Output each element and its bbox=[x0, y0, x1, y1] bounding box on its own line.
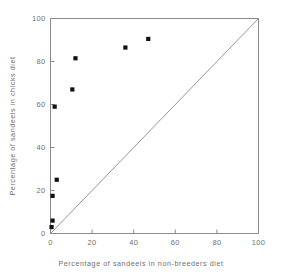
x-tick-label: 60 bbox=[171, 238, 180, 247]
y-tick-label: 60 bbox=[37, 100, 46, 109]
data-point bbox=[73, 56, 77, 60]
data-point bbox=[146, 37, 150, 41]
y-axis-tick-labels: 020406080100 bbox=[32, 14, 45, 238]
data-point bbox=[50, 219, 54, 223]
data-points bbox=[49, 37, 150, 229]
y-tick-label: 20 bbox=[37, 186, 46, 195]
data-point bbox=[53, 105, 57, 109]
x-tick-label: 100 bbox=[252, 238, 265, 247]
y-tick-label: 40 bbox=[37, 143, 46, 152]
scatter-chart-figure: 020406080100 020406080100 Percentage of … bbox=[0, 0, 282, 275]
data-point bbox=[55, 178, 59, 182]
one-to-one-reference-line bbox=[51, 19, 259, 234]
one-to-one-line bbox=[51, 19, 259, 234]
x-axis-title: Percentage of sandeels in non-breeders d… bbox=[58, 259, 223, 268]
chart-canvas: 020406080100 020406080100 Percentage of … bbox=[0, 0, 282, 275]
data-point bbox=[123, 45, 127, 49]
data-point bbox=[70, 87, 74, 91]
x-tick-label: 80 bbox=[212, 238, 221, 247]
y-tick-label: 100 bbox=[32, 14, 45, 23]
x-tick-label: 40 bbox=[129, 238, 138, 247]
x-axis-tick-labels: 020406080100 bbox=[48, 238, 265, 247]
x-tick-label: 0 bbox=[48, 238, 52, 247]
data-point bbox=[49, 225, 53, 229]
y-axis-title: Percentage of sandeels in chicks diet bbox=[8, 56, 17, 195]
y-tick-label: 0 bbox=[41, 229, 45, 238]
y-tick-label: 80 bbox=[37, 57, 46, 66]
x-tick-label: 20 bbox=[88, 238, 97, 247]
data-point bbox=[50, 194, 54, 198]
